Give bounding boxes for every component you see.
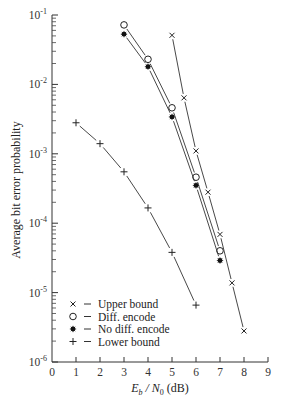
open-circle-marker-icon — [70, 313, 77, 320]
x-tick-label: 0 — [49, 366, 55, 378]
y-tick-label: 10-4 — [29, 215, 47, 229]
x-tick-label: 7 — [217, 366, 223, 378]
plus-marker-icon — [73, 119, 80, 126]
filled-star-marker-icon — [70, 326, 76, 332]
open-circle-marker-icon — [145, 56, 152, 63]
series-segment — [174, 113, 195, 173]
legend-item: Upper bound — [71, 298, 159, 311]
series-segment — [233, 287, 243, 327]
series-segment — [209, 196, 219, 231]
x-tick-label: 1 — [73, 366, 79, 378]
y-tick-label: 10-6 — [29, 354, 47, 368]
y-tick-label: 10-3 — [29, 146, 47, 160]
filled-star-marker-icon — [169, 114, 175, 120]
plus-marker-icon — [193, 302, 200, 309]
y-tick-label: 10-5 — [29, 285, 47, 299]
x-tick-label: 2 — [97, 366, 103, 378]
y-tick-label: 10-1 — [29, 7, 47, 21]
series-segment — [221, 238, 231, 279]
legend: Upper boundDiff. encodeNo diff. encodeLo… — [70, 298, 170, 348]
series-segment — [197, 190, 218, 256]
series-lower-bound — [73, 119, 200, 308]
legend-label: Lower bound — [98, 336, 160, 348]
plus-marker-icon — [70, 338, 77, 345]
x-tick-label: 6 — [193, 366, 199, 378]
plus-marker-icon — [169, 249, 176, 256]
x-marker-icon — [71, 302, 76, 307]
filled-star-marker-icon — [145, 63, 151, 69]
x-tick-label: 3 — [121, 366, 127, 378]
legend-item: No diff. encode — [70, 323, 170, 335]
x-marker-icon — [182, 95, 187, 100]
series-segment — [80, 126, 96, 140]
x-marker-icon — [218, 232, 223, 237]
filled-star-marker-icon — [217, 257, 223, 263]
open-circle-marker-icon — [121, 22, 128, 29]
x-marker-icon — [170, 33, 175, 38]
series-no-diff-encode — [121, 31, 223, 264]
series-segment — [197, 155, 207, 189]
x-tick-label: 8 — [241, 366, 247, 378]
y-tick-label: 10-2 — [29, 76, 47, 90]
plus-marker-icon — [121, 168, 128, 175]
legend-label: Diff. encode — [98, 311, 155, 323]
x-axis-title: Eb / N0 (dB) — [130, 381, 189, 397]
plus-marker-icon — [145, 204, 152, 211]
legend-label: Upper bound — [98, 298, 159, 311]
series-segment — [173, 39, 183, 94]
x-tick-label: 4 — [145, 366, 151, 378]
series-segment — [150, 212, 169, 248]
legend-label: No diff. encode — [98, 323, 170, 335]
y-axis-title: Average bit error probability — [9, 121, 23, 258]
series-segment — [103, 147, 121, 168]
legend-item: Diff. encode — [70, 311, 156, 323]
series-segment — [185, 102, 195, 147]
series-segment — [174, 257, 194, 301]
legend-item: Lower bound — [70, 336, 160, 348]
x-marker-icon — [194, 148, 199, 153]
x-marker-icon — [230, 280, 235, 285]
series-segment — [150, 64, 170, 104]
series-upper-bound — [170, 33, 247, 334]
plot-area — [73, 22, 247, 334]
filled-star-marker-icon — [193, 182, 199, 188]
open-circle-marker-icon — [169, 105, 176, 112]
series-segment — [150, 71, 170, 113]
filled-star-marker-icon — [121, 31, 127, 37]
series-segment — [127, 176, 145, 204]
series-diff-encode — [121, 22, 224, 255]
ber-chart: 10-110-210-310-410-510-60123456789 Upper… — [0, 0, 281, 402]
x-marker-icon — [206, 190, 211, 195]
x-marker-icon — [242, 328, 247, 333]
x-tick-label: 9 — [265, 366, 271, 378]
plus-marker-icon — [97, 140, 104, 147]
x-tick-label: 5 — [169, 366, 175, 378]
